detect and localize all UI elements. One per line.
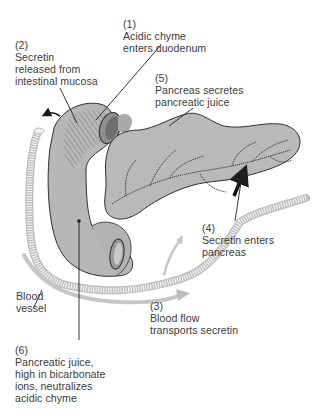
label-step-6-line-1: Pancreatic juice, xyxy=(15,356,105,368)
label-step-2-number: (2) xyxy=(15,39,98,51)
label-step-5-line-2: pancreatic juice xyxy=(155,96,244,108)
label-step-3: (3) Blood flow transports secretin xyxy=(150,300,238,336)
label-step-5-line-1: Pancreas secretes xyxy=(155,84,244,96)
label-step-1-line-2: enters duodenum xyxy=(123,42,206,54)
label-blood-vessel-line-2: vessel xyxy=(16,302,46,314)
label-step-5-number: (5) xyxy=(155,72,244,84)
pancreas xyxy=(105,113,300,219)
label-step-6: (6) Pancreatic juice, high in bicarbonat… xyxy=(15,344,105,404)
secretin-diagram: (1) Acidic chyme enters duodenum (2) Sec… xyxy=(0,0,318,418)
label-blood-vessel-line-1: Blood xyxy=(16,290,46,302)
label-step-1-line-1: Acidic chyme xyxy=(123,30,206,42)
label-step-3-number: (3) xyxy=(150,300,238,312)
label-step-6-line-2: high in bicarbonate xyxy=(15,368,105,380)
label-step-4-line-1: Secretin enters xyxy=(202,234,274,246)
label-step-2-line-3: intestinal mucosa xyxy=(15,75,98,87)
label-step-4-number: (4) xyxy=(202,222,274,234)
label-step-5: (5) Pancreas secretes pancreatic juice xyxy=(155,72,244,108)
label-step-6-line-3: ions, neutralizes xyxy=(15,380,105,392)
label-step-4-line-2: pancreas xyxy=(202,246,274,258)
secretin-release-arrow xyxy=(46,113,60,116)
label-step-4: (4) Secretin enters pancreas xyxy=(202,222,274,258)
label-step-1: (1) Acidic chyme enters duodenum xyxy=(123,18,206,54)
label-blood-vessel: Blood vessel xyxy=(16,290,46,314)
label-step-2-line-2: released from xyxy=(15,63,98,75)
label-step-2: (2) Secretin released from intestinal mu… xyxy=(15,39,98,87)
label-step-3-line-1: Blood flow xyxy=(150,312,238,324)
label-step-6-line-4: acidic chyme xyxy=(15,392,105,404)
label-step-3-line-2: transports secretin xyxy=(150,324,238,336)
label-step-2-line-1: Secretin xyxy=(15,51,98,63)
label-step-6-number: (6) xyxy=(15,344,105,356)
label-step-1-number: (1) xyxy=(123,18,206,30)
